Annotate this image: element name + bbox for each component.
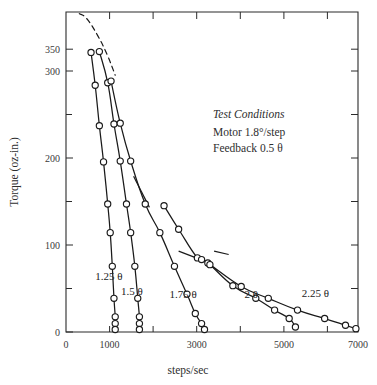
- data-point-marker: [198, 320, 204, 326]
- x-tick-label-7000: 7000: [348, 339, 368, 350]
- data-point-marker: [107, 230, 113, 236]
- data-point-marker: [92, 82, 98, 88]
- series-curve: [202, 260, 356, 329]
- data-point-marker: [207, 262, 213, 268]
- data-point-marker: [132, 263, 138, 269]
- data-point-marker: [88, 49, 94, 55]
- y-tick-label-350: 350: [45, 44, 60, 55]
- data-point-marker: [111, 121, 117, 127]
- leader-lines: [134, 176, 229, 258]
- series-curve: [91, 52, 115, 329]
- x-tick-label-3000: 3000: [187, 339, 207, 350]
- x-tick-labels: 0 1000 3000 5000 7000: [64, 339, 369, 350]
- annotation-motor: Motor 1.8°/step: [213, 126, 286, 139]
- data-point-marker: [136, 314, 142, 320]
- data-point-marker: [109, 263, 115, 269]
- x-tick-label-5000: 5000: [274, 339, 294, 350]
- data-point-marker: [230, 283, 236, 289]
- data-point-marker: [342, 322, 348, 328]
- y-tick-label-200: 200: [45, 153, 60, 164]
- leader-2.25: [214, 251, 229, 254]
- data-point-marker: [238, 283, 244, 289]
- data-point-marker: [100, 159, 106, 165]
- series-label: 2.25 θ: [302, 287, 329, 299]
- series-label: 1.5 θ: [121, 285, 143, 297]
- data-point-marker: [142, 201, 148, 207]
- data-point-marker: [271, 307, 277, 313]
- data-point-marker: [112, 320, 118, 326]
- data-point-marker: [96, 123, 102, 129]
- data-point-marker: [286, 315, 292, 321]
- envelope-dashed-curve: [79, 14, 115, 75]
- x-tick-label-0: 0: [64, 339, 69, 350]
- data-point-marker: [353, 326, 359, 332]
- data-point-marker: [128, 158, 134, 164]
- data-point-marker: [157, 230, 163, 236]
- annotation-title: Test Conditions: [213, 108, 285, 120]
- y-tick-label-300: 300: [45, 66, 60, 77]
- data-point-marker: [136, 320, 142, 326]
- data-point-marker: [123, 201, 129, 207]
- data-point-marker: [292, 324, 298, 330]
- data-point-marker: [171, 263, 177, 269]
- series-label: 2 θ: [245, 288, 259, 300]
- data-point-marker: [117, 120, 123, 126]
- data-point-marker: [117, 158, 123, 164]
- x-axis-title: steps/sec: [168, 364, 209, 377]
- data-point-marker: [111, 295, 117, 301]
- x-tick-label-1000: 1000: [100, 339, 120, 350]
- y-tick-label-0: 0: [55, 327, 60, 338]
- data-point-marker: [176, 226, 182, 232]
- data-point-marker: [265, 295, 271, 301]
- test-conditions-annotation: Test Conditions Motor 1.8°/step Feedback…: [213, 108, 286, 154]
- data-point-marker: [112, 326, 118, 332]
- data-point-marker: [192, 310, 198, 316]
- data-point-marker: [161, 203, 167, 209]
- data-point-marker: [201, 326, 207, 332]
- series-label: 1.75 θ: [169, 288, 196, 300]
- data-point-marker: [105, 201, 111, 207]
- data-point-marker: [112, 314, 118, 320]
- data-point-marker: [136, 326, 142, 332]
- y-tick-labels: 0 100 200 300 350: [45, 44, 60, 338]
- series-label: 1.25 θ: [95, 270, 122, 282]
- data-point-marker: [128, 230, 134, 236]
- envelope-curve: [79, 14, 115, 75]
- data-point-marker: [198, 256, 204, 262]
- data-point-marker: [108, 78, 114, 84]
- series-labels: 1.25 θ1.5 θ1.75 θ2 θ2.25 θ: [95, 270, 329, 301]
- torque-speed-chart: 0 100 200 300 350 0 1000 3000 5000 7000 …: [0, 0, 377, 385]
- y-tick-label-100: 100: [45, 240, 60, 251]
- data-point-marker: [294, 307, 300, 313]
- y-axis-title: Torque (oz-in.): [8, 137, 21, 207]
- chart-svg: 0 100 200 300 350 0 1000 3000 5000 7000 …: [0, 0, 377, 385]
- annotation-feedback: Feedback 0.5 θ: [213, 142, 283, 154]
- data-point-marker: [322, 315, 328, 321]
- data-point-marker: [96, 48, 102, 54]
